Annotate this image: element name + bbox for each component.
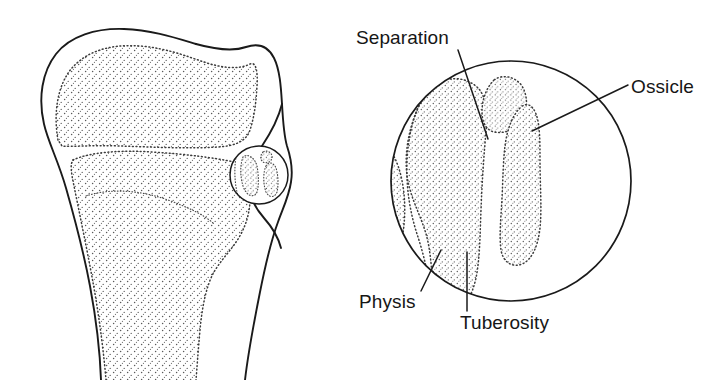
anatomical-figure: Separation Ossicle Physis Tuberosity <box>0 0 727 380</box>
label-separation: Separation <box>356 28 449 47</box>
label-ossicle: Ossicle <box>631 77 694 96</box>
figure-canvas <box>0 0 727 380</box>
tibia-overview-panel <box>41 29 291 380</box>
detail-circle-contents <box>382 56 640 315</box>
magnified-detail-panel <box>382 56 640 315</box>
tuberosity-shape <box>406 79 487 316</box>
label-tuberosity: Tuberosity <box>460 313 549 332</box>
label-physis: Physis <box>359 292 416 311</box>
tibial-epiphysis-region <box>56 46 257 148</box>
